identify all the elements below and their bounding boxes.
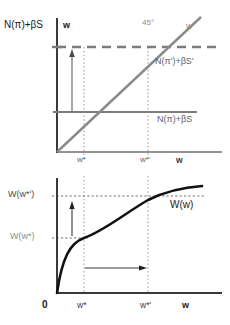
bottom-x-axis-label: w	[182, 301, 189, 310]
shifted-surplus-label: N(π')+βS'	[155, 57, 194, 66]
welfare-curve-label: W(w)	[170, 200, 193, 210]
top-xtick-wstar: w*	[77, 156, 86, 164]
top-axis-w-label: w	[63, 21, 70, 30]
figure-canvas: N(π)+βS w 45° w N(π')+βS' N(π)+βS w* w*'…	[0, 0, 230, 325]
wage-increase-arrow-head	[139, 265, 147, 270]
surplus-label: N(π)+βS	[157, 115, 192, 124]
diagram-svg	[0, 0, 230, 325]
bottom-xtick-wstar: w*	[77, 301, 86, 310]
top-xtick-wstarprime: w*'	[140, 156, 150, 164]
bottom-xtick-wstarprime: w*'	[140, 301, 151, 310]
shift-up-arrow-head	[69, 49, 75, 57]
bottom-ytick-low: W(w*)	[10, 232, 35, 241]
forty-five-line-w-label: w	[186, 22, 192, 31]
top-x-axis-label: w	[176, 156, 183, 165]
welfare-gain-arrow-head	[69, 201, 74, 209]
top-y-axis-label: N(π)+βS	[4, 20, 43, 30]
bottom-ytick-high: W(w*')	[8, 190, 34, 199]
bottom-panel-group	[52, 176, 222, 294]
top-panel-group	[52, 17, 222, 160]
forty-five-degree-label: 45°	[142, 19, 154, 27]
bottom-origin-label: 0	[42, 300, 48, 310]
forty-five-degree-line	[57, 17, 201, 152]
